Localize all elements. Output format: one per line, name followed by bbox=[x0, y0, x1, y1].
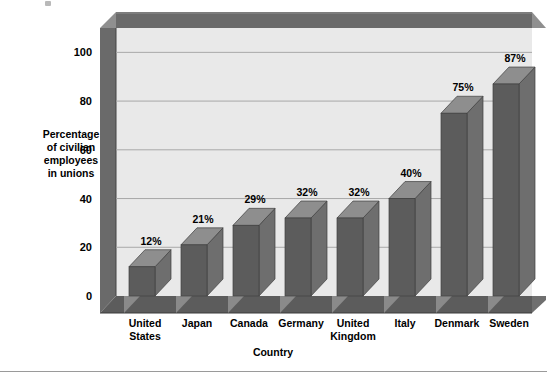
left-wall-face bbox=[100, 28, 116, 313]
x-axis-title: Country bbox=[253, 346, 293, 358]
floor-right-bevel bbox=[532, 296, 546, 313]
bar-front-face bbox=[285, 218, 311, 296]
bar-3[interactable] bbox=[285, 201, 327, 296]
top-wall-bevel-left bbox=[100, 12, 116, 28]
y-axis-title-line-3: in unions bbox=[48, 167, 95, 179]
x-category-label-1: Japan bbox=[182, 317, 212, 329]
bar-side-face bbox=[415, 182, 431, 296]
bar-6[interactable] bbox=[441, 96, 483, 296]
bar-front-face bbox=[181, 245, 207, 296]
bar-value-label-6: 75% bbox=[452, 81, 474, 93]
x-category-label-4: Kingdom bbox=[330, 330, 376, 342]
x-category-label-2: Canada bbox=[230, 317, 268, 329]
y-tick-label-0: 0 bbox=[86, 290, 92, 302]
bar-4[interactable] bbox=[337, 201, 379, 296]
top-wall-face bbox=[116, 12, 532, 28]
x-category-label-7: Sweden bbox=[489, 317, 529, 329]
x-category-label-5: Italy bbox=[394, 317, 415, 329]
bar-2[interactable] bbox=[233, 208, 275, 296]
bar-front-face bbox=[233, 225, 259, 296]
y-tick-label-80: 80 bbox=[80, 95, 92, 107]
bar-side-face bbox=[519, 67, 535, 296]
bar-1[interactable] bbox=[181, 228, 223, 296]
bar-5[interactable] bbox=[389, 182, 431, 296]
y-tick-label-40: 40 bbox=[80, 193, 92, 205]
bar-value-label-4: 32% bbox=[348, 186, 370, 198]
y-axis-title-line-0: Percentage bbox=[43, 128, 100, 140]
x-category-label-0: States bbox=[129, 330, 161, 342]
chart-floor bbox=[100, 296, 546, 313]
footer-divider bbox=[0, 371, 547, 372]
bar-front-face bbox=[389, 199, 415, 296]
bar-value-label-1: 21% bbox=[192, 213, 214, 225]
bar-value-label-2: 29% bbox=[244, 193, 266, 205]
x-category-label-0: United bbox=[129, 317, 162, 329]
bar-front-face bbox=[493, 84, 519, 296]
y-axis-title-line-2: employees bbox=[44, 154, 98, 166]
top-wall-bevel-right bbox=[532, 12, 546, 28]
chart-canvas: 020406080100 UnitedStatesJapanCanadaGerm… bbox=[0, 0, 547, 379]
y-tick-label-20: 20 bbox=[80, 241, 92, 253]
bar-value-label-0: 12% bbox=[140, 235, 162, 247]
y-axis-title: Percentageof civilianemployeesin unions bbox=[43, 128, 100, 179]
y-axis-title-line-1: of civilian bbox=[47, 141, 95, 153]
floor-face bbox=[100, 296, 532, 313]
bar-chart: 020406080100 UnitedStatesJapanCanadaGerm… bbox=[0, 0, 547, 379]
bar-front-face bbox=[337, 218, 363, 296]
bar-value-label-5: 40% bbox=[400, 167, 422, 179]
bar-7[interactable] bbox=[493, 67, 535, 296]
bar-side-face bbox=[467, 96, 483, 296]
x-category-label-4: United bbox=[337, 317, 370, 329]
x-axis-category-labels: UnitedStatesJapanCanadaGermanyUnitedKing… bbox=[129, 317, 529, 342]
x-category-label-3: Germany bbox=[278, 317, 324, 329]
bar-front-face bbox=[441, 113, 467, 296]
bar-value-label-3: 32% bbox=[296, 186, 318, 198]
top-wall-highlight bbox=[116, 12, 532, 14]
y-tick-label-100: 100 bbox=[74, 46, 92, 58]
scan-artifact bbox=[45, 1, 51, 6]
bar-value-label-7: 87% bbox=[504, 52, 526, 64]
x-category-label-6: Denmark bbox=[435, 317, 480, 329]
bar-front-face bbox=[129, 267, 155, 296]
